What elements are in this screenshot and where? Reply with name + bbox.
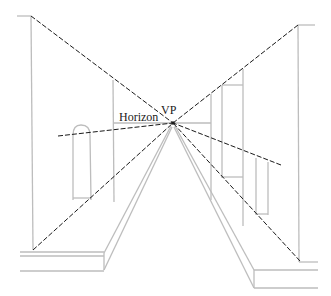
vanishing-point-marker: [171, 121, 175, 125]
building-outlines: [17, 16, 318, 288]
horizon-label: Horizon: [119, 111, 158, 123]
perspective-diagram: VP Horizon: [0, 0, 331, 296]
vanishing-lines: [31, 16, 300, 261]
vanishing-line-lower-right: [173, 123, 300, 261]
perspective-drawing: [0, 0, 331, 296]
vanishing-line-upper-left: [31, 16, 173, 123]
right-wall-edge: [298, 25, 299, 262]
vanishing-line-upper-right: [173, 25, 298, 123]
vanishing-line-lower-left: [33, 123, 173, 250]
arched-doorway: [73, 125, 91, 200]
right-road-edge-2: [174, 127, 254, 288]
vp-label: VP: [161, 104, 176, 116]
vanishing-line-left-mid: [58, 123, 173, 136]
left-inner-edge: [113, 80, 114, 202]
left-wall-edge: [31, 16, 33, 250]
